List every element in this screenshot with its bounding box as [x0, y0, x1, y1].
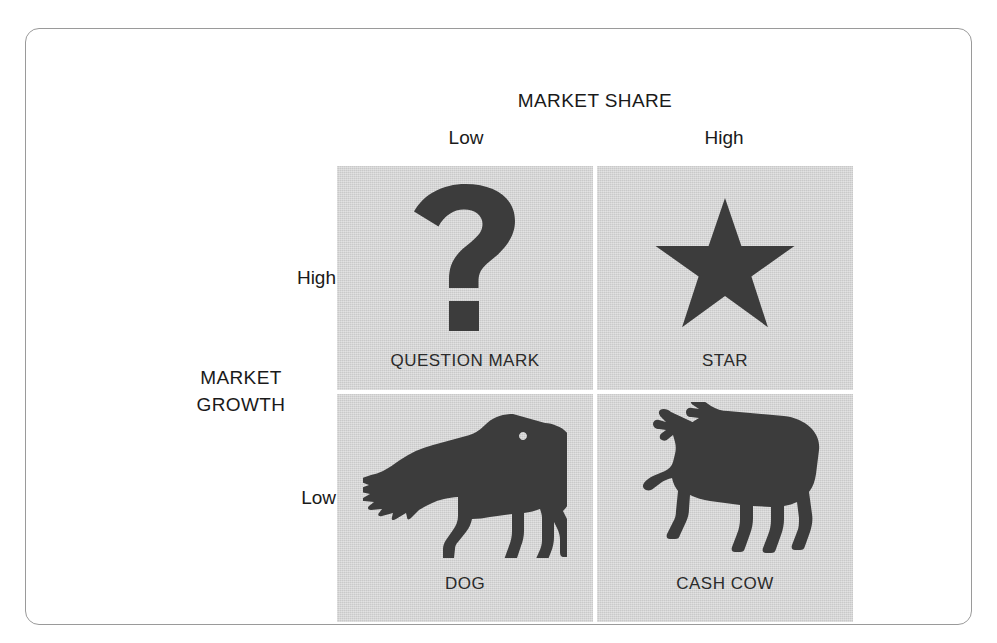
cow-silhouette-icon: [627, 402, 823, 560]
star-icon-wrap: [597, 196, 853, 331]
diagram-frame: MARKET SHARE Low High MARKET GROWTH High…: [25, 28, 972, 625]
growth-share-matrix: QUESTION MARK STAR DOG: [337, 166, 853, 622]
dog-silhouette-icon-wrap: [337, 404, 593, 559]
cow-silhouette-icon-wrap: [597, 402, 853, 560]
x-axis-label-low: Low: [337, 127, 595, 149]
y-axis-label-low: Low: [176, 487, 336, 509]
quadrant-cash-cow[interactable]: CASH COW: [597, 394, 853, 622]
question-mark-icon: [409, 184, 521, 334]
quadrant-dog[interactable]: DOG: [337, 394, 593, 622]
y-axis-title-line2: GROWTH: [146, 391, 336, 418]
question-mark-icon-wrap: [337, 184, 593, 334]
star-icon: [632, 198, 818, 330]
quadrant-label-star: STAR: [597, 351, 853, 371]
quadrant-question-mark[interactable]: QUESTION MARK: [337, 166, 593, 390]
quadrant-label-cash-cow: CASH COW: [597, 574, 853, 594]
y-axis-title: MARKET GROWTH: [146, 364, 336, 418]
page-root: MARKET SHARE Low High MARKET GROWTH High…: [0, 0, 997, 643]
quadrant-label-question-mark: QUESTION MARK: [337, 351, 593, 371]
quadrant-star[interactable]: STAR: [597, 166, 853, 390]
dog-silhouette-icon: [363, 406, 567, 558]
x-axis-label-high: High: [595, 127, 853, 149]
y-axis-title-line1: MARKET: [146, 364, 336, 391]
y-axis-label-high: High: [176, 267, 336, 289]
x-axis-title: MARKET SHARE: [337, 90, 853, 112]
quadrant-label-dog: DOG: [337, 574, 593, 594]
